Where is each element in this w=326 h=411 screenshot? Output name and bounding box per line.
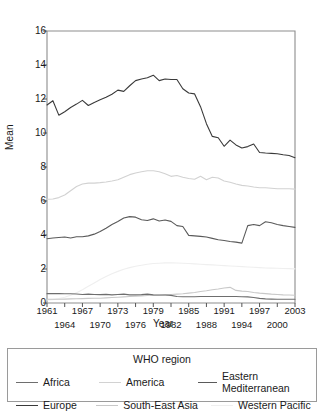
legend-item-label: America [126, 376, 165, 388]
y-axis-label: Mean [4, 124, 15, 150]
legend-item-label: Europe [43, 399, 77, 411]
legend-item-western-pacific[interactable]: Western Pacific [211, 399, 316, 411]
legend-swatch-line-icon [211, 405, 233, 406]
y-tick-label: 14 [26, 59, 46, 70]
y-tick-label: 12 [26, 93, 46, 104]
legend-title: WHO region [8, 353, 316, 365]
legend-swatch-line-icon [96, 405, 118, 406]
legend-swatch-line-icon [198, 382, 217, 383]
y-tick-label: 2 [26, 263, 46, 274]
x-tick-label: 2003 [278, 305, 312, 316]
series-line-america [47, 171, 295, 200]
legend-row-1: AfricaAmericaEastern Mediterranean [8, 370, 316, 394]
x-tick-label: 1985 [172, 305, 206, 316]
legend-swatch-line-icon [16, 405, 38, 406]
legend-item-europe[interactable]: Europe [8, 399, 96, 411]
legend-container: WHO region AfricaAmericaEastern Mediterr… [0, 340, 326, 408]
x-tick-label: 1973 [101, 305, 135, 316]
x-tick-label: 1961 [30, 305, 64, 316]
legend-row-2: EuropeSouth-East AsiaWestern Pacific [8, 399, 316, 411]
plot-svg [0, 0, 326, 340]
plot-frame [47, 31, 295, 303]
y-axis-tick-labels: 0246810121416 [20, 0, 46, 340]
y-tick-label: 16 [26, 25, 46, 36]
x-tick-label: 1991 [207, 305, 241, 316]
series-line-eastern-mediterranean [47, 217, 295, 244]
y-tick-label: 8 [26, 161, 46, 172]
legend-item-label: Africa [43, 376, 70, 388]
legend-item-africa[interactable]: Africa [8, 376, 99, 388]
legend-swatch-line-icon [16, 382, 38, 383]
y-tick-label: 4 [26, 229, 46, 240]
x-tick-label: 1997 [243, 305, 277, 316]
legend-item-label: Eastern Mediterranean [222, 370, 316, 394]
legend-item-south-east-asia[interactable]: South-East Asia [96, 399, 211, 411]
legend-box: WHO region AfricaAmericaEastern Mediterr… [7, 348, 317, 402]
x-tick-label: 1967 [65, 305, 99, 316]
legend-swatch-line-icon [99, 382, 121, 383]
y-tick-label: 10 [26, 127, 46, 138]
series-line-europe [47, 75, 295, 157]
chart-container: Mean 0246810121416 196119671973197919851… [0, 0, 326, 340]
y-tick-label: 6 [26, 195, 46, 206]
legend-item-eastern-mediterranean[interactable]: Eastern Mediterranean [198, 370, 316, 394]
legend-item-label: Western Pacific [238, 399, 311, 411]
legend-item-america[interactable]: America [99, 376, 198, 388]
x-tick-label: 1979 [136, 305, 170, 316]
x-axis-label: Year [0, 318, 326, 329]
legend-item-label: South-East Asia [123, 399, 198, 411]
